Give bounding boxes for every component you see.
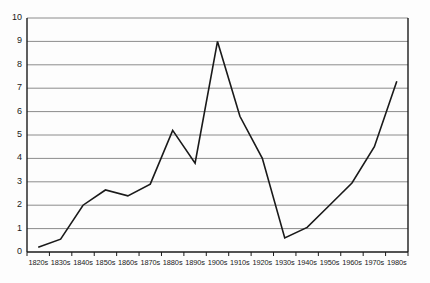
y-tick-label: 5 [0,130,22,139]
x-tick-label: 1980s [386,259,408,266]
chart-plot-area [0,0,430,283]
x-tick-label: 1940s [296,259,318,266]
x-tick-label: 1910s [229,259,251,266]
x-tick-label: 1860s [117,259,139,266]
y-tick-label: 2 [0,200,22,209]
x-tick-label: 1840s [72,259,94,266]
x-tick-label: 1870s [139,259,161,266]
x-tick-label: 1880s [161,259,183,266]
y-tick-label: 7 [0,83,22,92]
y-tick-label: 6 [0,107,22,116]
x-tick-label: 1930s [274,259,296,266]
y-tick-label: 1 [0,224,22,233]
y-tick-label: 3 [0,177,22,186]
x-tick-label: 1960s [341,259,363,266]
y-tick-label: 10 [0,13,22,22]
x-tick-label: 1900s [206,259,228,266]
x-tick-label: 1950s [318,259,340,266]
data-series-line [38,41,397,247]
gridlines [27,18,408,229]
y-tick-label: 8 [0,60,22,69]
x-tick-label: 1820s [27,259,49,266]
x-tick-label: 1920s [251,259,273,266]
y-tick-label: 9 [0,36,22,45]
line-chart: 012345678910 1820s1830s1840s1850s1860s18… [0,0,430,283]
x-tick-label: 1850s [94,259,116,266]
x-tick-label: 1830s [49,259,71,266]
x-tick-label: 1890s [184,259,206,266]
y-tick-label: 0 [0,247,22,256]
y-tick-label: 4 [0,153,22,162]
x-tick-label: 1970s [363,259,385,266]
